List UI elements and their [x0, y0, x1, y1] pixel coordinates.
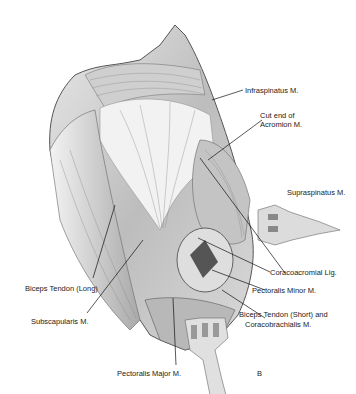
label-cut-end-acromion-line2: Acromion M. — [260, 120, 302, 129]
shoulder-anatomy-illustration — [0, 0, 356, 394]
label-subscapularis: Subscapularis M. — [31, 317, 89, 326]
label-biceps-short-line1: Biceps Tendon (Short) and — [239, 310, 328, 319]
label-infraspinatus: Infraspinatus M. — [245, 86, 298, 95]
label-biceps-short-line2: Coracobrachialis M. — [245, 320, 311, 329]
label-coracoacromial: Coracoacromial Lig. — [270, 268, 337, 277]
label-biceps-long: Biceps Tendon (Long) — [25, 284, 98, 293]
panel-letter: B — [257, 369, 262, 378]
label-supraspinatus: Supraspinatus M. — [287, 188, 345, 197]
label-cut-end-acromion-line1: Cut end of — [260, 111, 295, 120]
label-pectoralis-minor: Pectoralis Minor M. — [252, 286, 316, 295]
label-pectoralis-major: Pectoralis Major M. — [117, 369, 181, 378]
